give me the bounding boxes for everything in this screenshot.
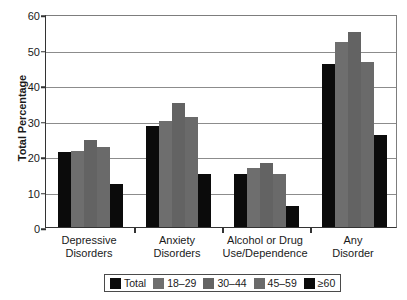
bar (84, 140, 97, 227)
legend-item: Total (110, 277, 146, 289)
legend-label: Total (124, 277, 146, 289)
legend-item: ≥60 (304, 277, 335, 289)
bar (234, 174, 247, 227)
legend-item: 30–44 (203, 277, 246, 289)
bar (335, 42, 348, 227)
bar-group (222, 16, 310, 227)
y-axis-title: Total Percentage (16, 48, 28, 188)
bar (286, 206, 299, 227)
legend-label: ≥60 (318, 277, 335, 289)
x-category-label: Alcohol or Drug Use/Dependence (222, 234, 307, 260)
bar (110, 184, 123, 227)
bar-group (310, 16, 398, 227)
bar (97, 147, 110, 227)
bar (361, 62, 374, 227)
bar (260, 163, 273, 227)
bar (198, 174, 211, 227)
bar (185, 117, 198, 227)
bar (58, 152, 71, 227)
bar (322, 64, 335, 227)
legend-swatch-icon (304, 278, 315, 289)
legend-label: 45–59 (268, 277, 297, 289)
x-category-label: Anxiety Disorders (153, 234, 200, 260)
legend-label: 30–44 (217, 277, 246, 289)
x-tick-mark (134, 227, 136, 233)
bar (172, 103, 185, 227)
legend-swatch-icon (203, 278, 214, 289)
y-tick-label-20: 20 (28, 152, 40, 164)
bar (273, 174, 286, 227)
y-tick-label-10: 10 (28, 188, 40, 200)
bar-group (134, 16, 222, 227)
y-tick-label-60: 60 (28, 10, 40, 22)
legend-item: 18–29 (153, 277, 196, 289)
legend-item: 45–59 (254, 277, 297, 289)
legend-swatch-icon (153, 278, 164, 289)
y-tick-label-0: 0 (34, 223, 40, 235)
x-tick-mark (310, 227, 312, 233)
x-tick-mark (222, 227, 224, 233)
bar (247, 168, 260, 227)
y-tick-label-30: 30 (28, 117, 40, 129)
bar (159, 121, 172, 228)
legend-label: 18–29 (167, 277, 196, 289)
legend-swatch-icon (254, 278, 265, 289)
y-tick-mark-0 (41, 228, 46, 230)
x-category-label: Any Disorder (332, 234, 374, 260)
legend-swatch-icon (110, 278, 121, 289)
bar (374, 135, 387, 227)
bar (146, 126, 159, 227)
bar (71, 151, 84, 227)
y-tick-label-40: 40 (28, 81, 40, 93)
bar-group (46, 16, 134, 227)
chart-figure: Total Percentage 0102030405060 Depressiv… (0, 0, 407, 300)
chart-legend: Total18–2930–4445–59≥60 (104, 274, 341, 292)
plot-area: 0102030405060 (45, 15, 397, 228)
y-tick-label-50: 50 (28, 46, 40, 58)
x-category-label: Depressive Disorders (61, 234, 116, 260)
bar (348, 32, 361, 227)
